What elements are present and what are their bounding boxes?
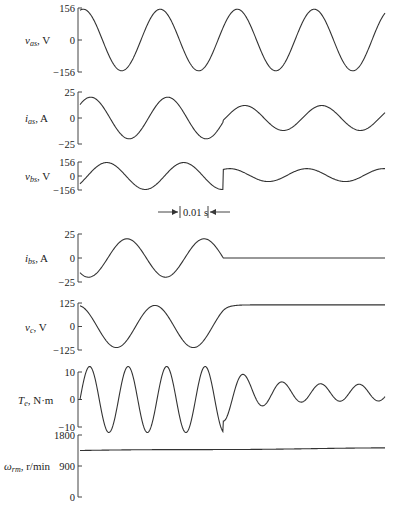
tick-label: 0 (70, 253, 75, 264)
tick-label: −25 (59, 277, 75, 288)
trace-ias (80, 97, 385, 139)
y-label-subscript: bs (28, 257, 35, 266)
trace-vbs (80, 163, 385, 190)
tick-label: −156 (53, 185, 75, 196)
y-label-unit: , A (35, 252, 48, 264)
tick-label: −156 (53, 67, 75, 78)
tick-label: 900 (59, 461, 75, 472)
y-label-subscript: as (30, 39, 37, 48)
y-label-vas: vas, V (25, 34, 50, 48)
y-label-subscript: rm (12, 465, 21, 474)
trace-wrm (80, 448, 385, 451)
y-label-unit: , r/min (21, 460, 51, 472)
panel-ibs: 250−25ibs, A (25, 229, 385, 288)
trace-vc (80, 305, 385, 348)
tick-label: 0 (70, 113, 75, 124)
time-scale-label: 0.01 s (183, 207, 208, 218)
y-label-te: Te, N·m (18, 394, 54, 408)
panel-te: 100−10Te, N·m (18, 367, 385, 433)
y-label-unit: , V (33, 321, 46, 333)
tick-label: −25 (59, 139, 75, 150)
scale-arrowhead-left (172, 209, 178, 215)
panel-vc: 1250−125vc, V (25, 298, 385, 356)
tick-label: 0 (70, 321, 75, 332)
tick-label: 25 (65, 229, 76, 240)
tick-label: 0 (70, 492, 75, 503)
panel-vas: 1560−156vas, V (25, 3, 385, 78)
waveform-figure: 1560−156vas, V250−25ias, A1560−156vbs, V… (0, 0, 409, 517)
panel-ias: 250−25ias, A (25, 87, 385, 150)
y-label-subscript: as (28, 117, 35, 126)
y-label-vc: vc, V (25, 321, 47, 335)
tick-label: 125 (59, 298, 75, 309)
y-label-wrm: ωrm, r/min (4, 460, 51, 474)
trace-ibs (80, 239, 385, 277)
panel-vbs: 1560−156vbs, V (25, 157, 385, 196)
tick-label: −125 (53, 345, 75, 356)
y-label-ibs: ibs, A (25, 252, 48, 266)
tick-label: 1800 (54, 430, 75, 441)
tick-label: 10 (65, 367, 76, 378)
tick-label: 0 (70, 171, 75, 182)
tick-label: 0 (70, 394, 75, 405)
tick-label: 156 (59, 3, 75, 14)
tick-label: 0 (70, 35, 75, 46)
y-label-unit: , A (35, 112, 48, 124)
tick-label: 156 (59, 157, 75, 168)
tick-label: 25 (65, 87, 76, 98)
y-label-vbs: vbs, V (25, 170, 50, 184)
panel-wrm: 18009000ωrm, r/min (4, 430, 385, 503)
trace-vas (80, 9, 385, 71)
y-label-ias: ias, A (25, 112, 48, 126)
y-label-unit: , V (37, 34, 50, 46)
y-label-subscript: bs (30, 175, 37, 184)
time-scale-bar: 0.01 s (158, 206, 230, 218)
y-label-unit: , V (37, 170, 50, 182)
y-label-unit: , N·m (28, 394, 54, 406)
trace-te (80, 367, 385, 433)
